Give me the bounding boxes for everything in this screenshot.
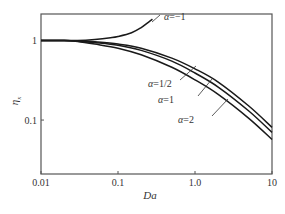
label-alpha-1: α=1 [158, 94, 174, 105]
svg-text:ηx: ηx [8, 96, 23, 105]
annotation-leader-line [198, 79, 212, 96]
chart-figure: 0.010.11.010 10.1 α=−1α=1/2α=1α=2 Da ηx [0, 0, 285, 214]
x-tick-label: 1.0 [189, 177, 202, 188]
label-alpha-half: α=1/2 [148, 78, 172, 89]
alpha-value: =2 [183, 114, 194, 125]
x-tick-label: 0.1 [112, 177, 125, 188]
alpha-value: =1 [163, 94, 174, 105]
label-alpha-neg1: α=−1 [164, 11, 186, 22]
x-axis-title: Da [142, 189, 157, 201]
y-tick-label: 1 [32, 35, 37, 46]
x-tick-label: 0.01 [32, 177, 50, 188]
alpha-value: =1/2 [153, 78, 171, 89]
annotation-leader-line [212, 99, 228, 116]
annotation-leader-line [152, 15, 160, 22]
alpha-value: =−1 [169, 11, 185, 22]
x-tick-label: 10 [267, 177, 277, 188]
y-tick-label: 0.1 [25, 115, 38, 126]
y-axis-title: ηx [8, 96, 23, 105]
curve-alpha-neg1 [41, 19, 152, 40]
y-axis-title-sub: x [15, 96, 23, 101]
plot-frame [41, 14, 272, 174]
label-alpha-2: α=2 [178, 114, 194, 125]
